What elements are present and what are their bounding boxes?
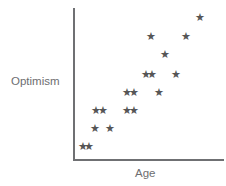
data-point-marker: ★ [171, 69, 182, 80]
plot-area: ★★★★★★★★★★★★★★★★★★ Optimism Age [0, 0, 226, 186]
data-point-marker: ★ [154, 87, 165, 98]
x-axis-line [73, 159, 224, 161]
data-point-marker: ★ [146, 31, 157, 42]
data-point-marker: ★ [147, 69, 158, 80]
y-axis-line [73, 8, 75, 161]
data-point-marker: ★ [98, 105, 109, 116]
data-point-marker: ★ [129, 105, 140, 116]
data-point-marker: ★ [84, 141, 95, 152]
data-point-marker: ★ [195, 12, 206, 23]
x-axis-label: Age [135, 167, 155, 180]
data-point-marker: ★ [181, 31, 192, 42]
scatter-plot-screenshot: ★★★★★★★★★★★★★★★★★★ Optimism Age [0, 0, 226, 186]
data-point-marker: ★ [160, 49, 171, 60]
data-point-marker: ★ [129, 87, 140, 98]
data-point-marker: ★ [90, 123, 101, 134]
data-point-marker: ★ [105, 123, 116, 134]
y-axis-label: Optimism [11, 75, 60, 88]
